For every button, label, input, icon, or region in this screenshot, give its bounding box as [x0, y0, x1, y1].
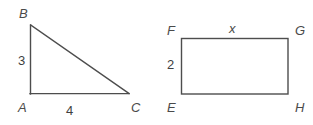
rectangle-outline [182, 39, 289, 95]
side-length-fg: x [229, 22, 236, 35]
corner-label-e: E [167, 101, 176, 114]
triangle-abc [30, 25, 129, 94]
vertex-label-b: B [19, 7, 28, 20]
geometry-diagram-canvas [0, 0, 313, 125]
vertex-label-c: C [131, 101, 140, 114]
corner-label-h: H [295, 101, 304, 114]
triangle-hypotenuse-bc [31, 25, 129, 94]
vertex-label-a: A [18, 101, 27, 114]
side-length-ac: 4 [66, 104, 73, 117]
corner-label-f: F [167, 24, 175, 37]
rectangle-efgh [182, 39, 289, 95]
corner-label-g: G [295, 24, 305, 37]
side-length-ef: 2 [167, 58, 174, 71]
side-length-ab: 3 [18, 54, 25, 67]
